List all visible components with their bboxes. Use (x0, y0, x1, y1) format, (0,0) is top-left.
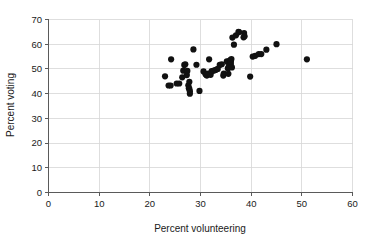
data-point (225, 71, 231, 77)
x-tick-label: 20 (145, 198, 156, 209)
gridlines-group (49, 20, 353, 193)
tick-labels-group: 0102030405060700102030405060 (31, 14, 357, 209)
data-points-group (162, 29, 310, 97)
data-point (190, 46, 196, 52)
data-point (162, 73, 168, 79)
x-tick-label: 60 (347, 198, 358, 209)
y-tick-label: 70 (31, 14, 42, 25)
data-point (206, 56, 212, 62)
y-tick-label: 50 (31, 63, 42, 74)
x-axis-title: Percent volunteering (154, 223, 246, 234)
data-point (228, 56, 234, 62)
data-point (247, 73, 253, 79)
data-point (231, 42, 237, 48)
data-point (176, 80, 182, 86)
data-point (168, 82, 174, 88)
y-tick-label: 0 (37, 187, 42, 198)
x-tick-label: 30 (195, 198, 206, 209)
data-point (304, 56, 310, 62)
y-axis-title: Percent voting (5, 73, 16, 137)
data-point (184, 68, 190, 74)
tick-marks-group (45, 20, 353, 197)
x-tick-label: 40 (246, 198, 257, 209)
y-tick-label: 60 (31, 39, 42, 50)
data-point (186, 79, 192, 85)
data-point (168, 56, 174, 62)
x-tick-label: 0 (46, 198, 51, 209)
data-point (273, 41, 279, 47)
data-point (241, 33, 247, 39)
data-point (196, 88, 202, 94)
data-point (229, 64, 235, 70)
data-point (182, 61, 188, 67)
data-point (187, 88, 193, 94)
data-point (258, 51, 264, 57)
data-point (263, 47, 269, 53)
y-tick-label: 40 (31, 88, 42, 99)
x-tick-label: 50 (297, 198, 308, 209)
data-point (193, 62, 199, 68)
y-tick-label: 10 (31, 162, 42, 173)
plot-area: 0102030405060700102030405060 Percent vol… (0, 0, 376, 239)
x-tick-label: 10 (94, 198, 105, 209)
scatter-chart: 0102030405060700102030405060 Percent vol… (0, 0, 376, 239)
y-tick-label: 20 (31, 137, 42, 148)
y-tick-label: 30 (31, 113, 42, 124)
